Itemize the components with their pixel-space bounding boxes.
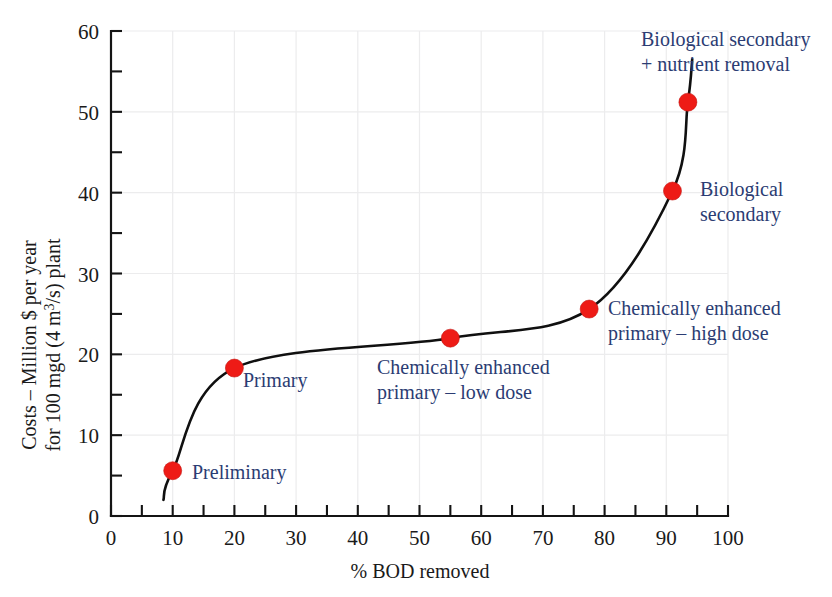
y-axis-title: Costs – Million $ per year for 100 mgd (… [18, 238, 65, 452]
annotation-bio-nutrient-line2: + nutrient removal [641, 53, 790, 75]
annotation-primary: Primary [243, 369, 307, 392]
y-axis-tick-labels: 0102030405060 [78, 20, 99, 529]
x-tick-label: 80 [594, 526, 615, 550]
x-tick-label: 40 [347, 526, 368, 550]
annotation-biological-secondary-line1: Biological [700, 178, 784, 201]
annotation-bio-nutrient-line1: Biological secondary [641, 28, 810, 51]
data-point-marker [225, 359, 243, 377]
annotation-cep-low-dose: Chemically enhanced primary – low dose [377, 356, 550, 404]
annotation-cep-low-dose-line1: Chemically enhanced [377, 356, 550, 379]
y-axis-ticks [111, 31, 122, 516]
x-tick-label: 20 [224, 526, 245, 550]
x-axis-title: % BOD removed [351, 560, 490, 582]
annotation-biological-secondary-line2: secondary [700, 203, 781, 226]
chart-container: 0102030405060 0102030405060708090100 Cos… [0, 0, 832, 597]
annotation-preliminary: Preliminary [192, 461, 286, 484]
y-tick-label: 0 [89, 505, 100, 529]
x-tick-label: 30 [286, 526, 307, 550]
x-tick-label: 70 [532, 526, 553, 550]
x-tick-label: 100 [712, 526, 744, 550]
cost-vs-bod-removal-chart: 0102030405060 0102030405060708090100 Cos… [0, 0, 832, 597]
annotation-cep-high-dose-line1: Chemically enhanced [608, 297, 781, 320]
y-tick-label: 20 [78, 343, 99, 367]
x-tick-label: 10 [162, 526, 183, 550]
data-point-marker [580, 300, 598, 318]
annotation-cep-low-dose-line2: primary – low dose [377, 381, 532, 404]
data-point-marker [679, 93, 697, 111]
x-axis-tick-labels: 0102030405060708090100 [106, 526, 744, 550]
x-axis-ticks [111, 505, 728, 516]
data-point-marker [164, 462, 182, 480]
y-axis-title-line1: Costs – Million $ per year [18, 240, 41, 450]
y-tick-label: 40 [78, 182, 99, 206]
data-point-markers [164, 93, 697, 480]
data-point-marker [441, 329, 459, 347]
annotation-biological-secondary: Biological secondary [700, 178, 784, 226]
y-tick-label: 60 [78, 20, 99, 44]
y-tick-label: 50 [78, 101, 99, 125]
y-tick-label: 30 [78, 263, 99, 287]
x-tick-label: 60 [471, 526, 492, 550]
x-tick-label: 0 [106, 526, 117, 550]
x-tick-label: 50 [409, 526, 430, 550]
data-point-marker [663, 182, 681, 200]
cost-curve [163, 59, 692, 500]
y-tick-label: 10 [78, 424, 99, 448]
annotation-cep-high-dose: Chemically enhanced primary – high dose [608, 297, 781, 345]
annotation-cep-high-dose-line2: primary – high dose [608, 322, 769, 345]
annotation-preliminary-text: Preliminary [192, 461, 286, 484]
x-tick-label: 90 [656, 526, 677, 550]
annotation-primary-text: Primary [243, 369, 307, 392]
gridlines [111, 31, 728, 516]
y-axis-title-line2: for 100 mgd (4 m3/s) plant [42, 238, 65, 452]
